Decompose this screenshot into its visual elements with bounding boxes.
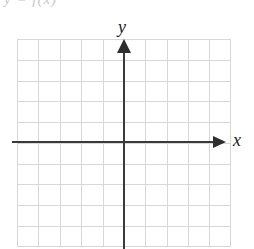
header-text-fragment: y = f(x) [4, 0, 57, 8]
x-axis-arrow-icon [213, 136, 226, 148]
x-axis [12, 141, 215, 143]
y-axis [123, 50, 125, 249]
graph-figure: y = f(x) y x [0, 0, 254, 249]
y-axis-arrow-icon [117, 39, 131, 53]
x-axis-label: x [233, 131, 241, 149]
y-axis-label: y [118, 18, 126, 36]
